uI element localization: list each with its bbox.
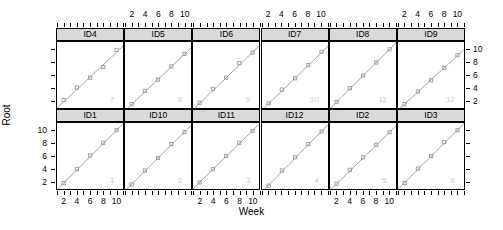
axis-tick-label: 6 [473, 71, 478, 80]
axis-tick-label: 4 [74, 197, 79, 206]
axis-tick-label: 6 [360, 197, 365, 206]
axis-tick-label: 6 [42, 152, 47, 161]
axis-tick-label: 8 [101, 197, 106, 206]
axis-tick-label: 10 [384, 197, 393, 206]
axis-tick-label: 2 [334, 197, 339, 206]
axis-tick-label: 4 [279, 10, 284, 19]
axis-tick-label: 6 [88, 197, 93, 206]
axis-tick-label: 10 [473, 44, 482, 53]
axis-tick-label: 4 [211, 197, 216, 206]
axis-tick-label: 8 [237, 197, 242, 206]
axis-tick-label: 4 [415, 10, 420, 19]
axis-tick-label: 4 [473, 84, 478, 93]
axis-tick-label: 6 [224, 197, 229, 206]
axis-tick-label: 10 [248, 197, 257, 206]
axis-tick-label: 10 [453, 10, 462, 19]
trellis-plot-figure: Root Week ID47ID58ID69ID710ID811ID912ID1… [0, 0, 503, 230]
axis-tick-label: 8 [374, 197, 379, 206]
axis-tick-label: 2 [198, 197, 203, 206]
axis-tick-label: 6 [156, 10, 161, 19]
axis-tick-label: 8 [169, 10, 174, 19]
axis-tick-label: 10 [180, 10, 189, 19]
axis-tick-label: 4 [143, 10, 148, 19]
axis-tick-label: 8 [473, 58, 478, 67]
axis-tick-label: 8 [305, 10, 310, 19]
axis-tick-label: 2 [266, 10, 271, 19]
axis-tick-label: 2 [129, 10, 134, 19]
axis-tick-label: 4 [42, 165, 47, 174]
axis-tick-label: 10 [112, 197, 121, 206]
axis-label-layer: 2468102468102468102468102468102468102468… [0, 0, 503, 230]
axis-tick-label: 6 [429, 10, 434, 19]
axis-tick-label: 2 [42, 178, 47, 187]
axis-tick-label: 6 [292, 10, 297, 19]
axis-tick-label: 10 [38, 125, 47, 134]
axis-tick-label: 2 [402, 10, 407, 19]
axis-tick-label: 8 [442, 10, 447, 19]
axis-tick-label: 2 [473, 97, 478, 106]
axis-tick-label: 10 [316, 10, 325, 19]
axis-tick-label: 2 [61, 197, 66, 206]
axis-tick-label: 4 [347, 197, 352, 206]
axis-tick-label: 8 [42, 139, 47, 148]
